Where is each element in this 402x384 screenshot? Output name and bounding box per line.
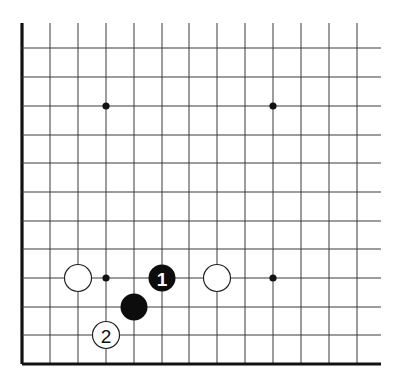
black-stone-circle: [121, 294, 148, 321]
move-number-label: 2: [101, 326, 112, 347]
white-stone: 2: [93, 322, 120, 349]
white-stone: [204, 265, 231, 292]
star-point: [102, 102, 109, 109]
black-stone: [121, 294, 148, 321]
board-grid: [22, 23, 381, 364]
star-point: [269, 274, 276, 281]
white-stone-circle: [204, 265, 231, 292]
go-board: 12: [0, 0, 402, 384]
black-stone: 1: [149, 265, 176, 292]
white-stone-circle: [65, 265, 92, 292]
star-point: [269, 102, 276, 109]
move-number-label: 1: [157, 269, 168, 290]
star-point: [102, 274, 109, 281]
white-stone: [65, 265, 92, 292]
